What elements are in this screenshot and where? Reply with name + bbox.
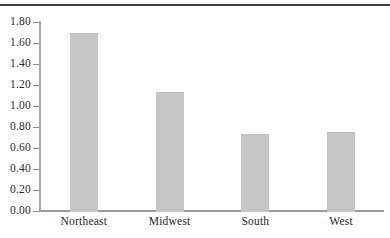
y-tick-label: 0.00 (0, 205, 31, 217)
y-axis-line (39, 21, 41, 212)
y-tick-label: 1.20 (0, 79, 31, 91)
y-tick-label: 0.80 (0, 121, 31, 133)
y-tick-mark (33, 43, 39, 44)
y-tick-mark (33, 22, 39, 23)
y-tick-mark (33, 106, 39, 107)
y-tick-label: 0.20 (0, 184, 31, 196)
x-tick-label: Midwest (127, 215, 213, 227)
y-tick-label: 1.80 (0, 16, 31, 28)
y-tick-mark (33, 85, 39, 86)
y-tick-label: 1.00 (0, 100, 31, 112)
x-tick-label: South (213, 215, 299, 227)
y-tick-mark (33, 127, 39, 128)
y-tick-mark (33, 64, 39, 65)
y-tick-mark (33, 190, 39, 191)
y-tick-mark (33, 211, 39, 212)
x-tick-label: West (298, 215, 384, 227)
y-tick-mark (33, 148, 39, 149)
bar-chart-figure: 0.000.200.400.600.801.001.201.401.601.80… (0, 0, 390, 238)
top-horizontal-rule (0, 4, 390, 6)
y-tick-label: 0.60 (0, 142, 31, 154)
y-tick-label: 0.40 (0, 163, 31, 175)
y-tick-label: 1.60 (0, 37, 31, 49)
y-tick-label: 1.40 (0, 58, 31, 70)
y-tick-mark (33, 169, 39, 170)
bar (241, 134, 269, 212)
bar (156, 92, 184, 212)
bar (70, 33, 98, 213)
x-tick-label: Northeast (41, 215, 127, 227)
bar (327, 132, 355, 212)
